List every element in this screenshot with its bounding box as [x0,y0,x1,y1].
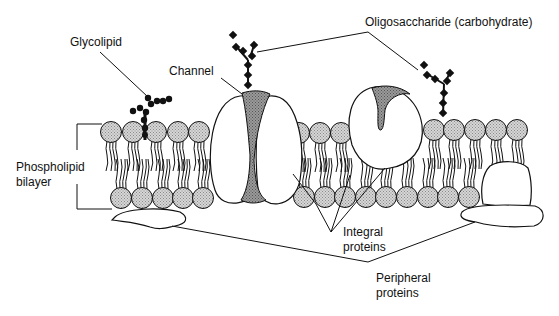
upper-leaflet [101,120,528,173]
label-integral-proteins: Integral proteins [343,225,386,255]
label-phospholipid-bilayer: Phospholipid bilayer [16,160,85,190]
channel-protein [210,91,301,204]
label-oligosaccharide: Oligosaccharide (carbohydrate) [365,15,532,30]
integral-protein-globular [349,86,422,169]
label-peripheral-proteins: Peripheral proteins [376,271,431,301]
right-carbohydrate [420,61,454,117]
channel-carbohydrate [229,31,258,89]
peripheral-protein-left [112,209,186,229]
label-channel: Channel [169,64,214,79]
label-glycolipid: Glycolipid [70,35,122,50]
